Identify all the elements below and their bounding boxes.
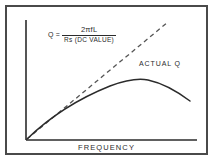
x-axis-label: FREQUENCY <box>78 143 135 152</box>
formula-left-hand-side: Q = <box>48 31 60 38</box>
q-formula-annotation: Q = 2πfL Rs (DC VALUE) <box>48 26 116 43</box>
actual-q-curve-label: ACTUAL Q <box>139 60 181 67</box>
actual-q-curve <box>27 79 190 139</box>
figure-container: Q = 2πfL Rs (DC VALUE) ACTUAL Q FREQUENC… <box>0 0 223 166</box>
formula-numerator: 2πfL <box>75 26 103 35</box>
formula-denominator: Rs (DC VALUE) <box>62 36 116 44</box>
formula-fraction: 2πfL Rs (DC VALUE) <box>62 26 116 43</box>
plot-canvas <box>0 0 223 166</box>
